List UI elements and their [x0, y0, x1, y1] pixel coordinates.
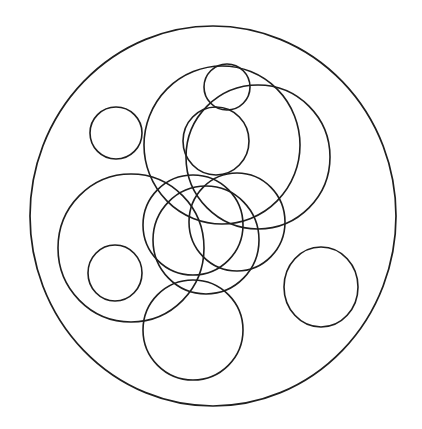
figure-canvas — [0, 0, 422, 429]
large-circle-upper-left — [144, 66, 300, 224]
small-circle-right — [284, 247, 358, 327]
large-circle-bottom — [143, 280, 243, 380]
medium-circle-center-low — [153, 186, 259, 294]
small-circle-upper-left — [90, 107, 142, 159]
large-circle-left — [58, 174, 204, 322]
large-circle-upper-right — [186, 85, 330, 229]
medium-circle-upper-center — [183, 107, 249, 175]
small-circle-left-inner — [88, 245, 142, 301]
circles-diagram — [0, 0, 422, 429]
boundary-circle — [30, 26, 396, 406]
